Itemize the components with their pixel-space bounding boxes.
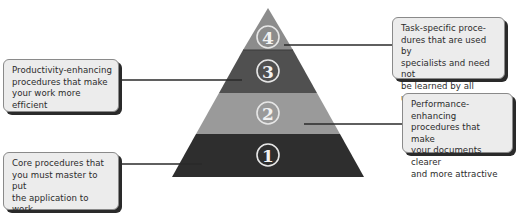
svg-text:2: 2 [262, 104, 274, 124]
svg-text:3: 3 [262, 62, 274, 82]
callout-level-3-productivity: Productivity-enhancing procedures that m… [3, 59, 119, 112]
callout-text: Core procedures that you must master to … [12, 158, 112, 216]
svg-text:4: 4 [262, 28, 274, 48]
callout-text: Task-specific proce- dures that are used… [401, 23, 498, 104]
callout-text: Performance-enhancing procedures that ma… [411, 99, 506, 180]
callout-level-2-performance: Performance-enhancing procedures that ma… [402, 93, 513, 153]
skill-pyramid-diagram: 4 3 2 1 Productivity-enhancing procedure… [0, 0, 519, 216]
callout-level-4-task-specific: Task-specific proce- dures that are used… [392, 17, 505, 79]
svg-text:1: 1 [262, 146, 274, 166]
callout-level-1-core: Core procedures that you must master to … [3, 152, 119, 210]
callout-text: Productivity-enhancing procedures that m… [12, 65, 112, 111]
